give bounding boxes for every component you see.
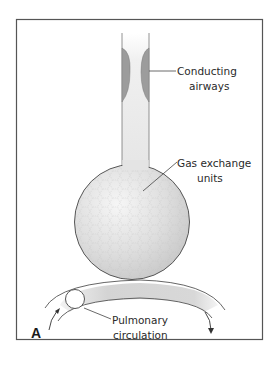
label-pulmonary: Pulmonary [112, 314, 168, 326]
panel-label: A [31, 325, 41, 341]
lung-diagram: Conducting airways Gas exchange units Pu… [0, 0, 275, 371]
label-airways: airways [189, 80, 229, 92]
conducting-airway-tube [122, 33, 149, 168]
label-units: units [197, 172, 223, 184]
red-blood-cell [66, 290, 85, 309]
label-conducting: Conducting [177, 65, 237, 77]
label-circulation: circulation [113, 329, 168, 341]
label-gas-exchange: Gas exchange [177, 157, 251, 169]
